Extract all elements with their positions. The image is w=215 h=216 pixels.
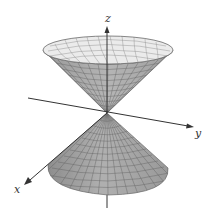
x-axis-label: x (14, 183, 21, 196)
z-axis-label: z (104, 12, 111, 25)
z-axis-arrow-icon (105, 26, 110, 33)
upper-nappe (43, 36, 173, 113)
lower-nappe (46, 113, 170, 196)
x-axis-arrow-icon (24, 177, 32, 185)
y-axis-label: y (194, 127, 202, 140)
y-axis-arrow-icon (186, 124, 194, 129)
double-cone-diagram: z y x (0, 0, 215, 216)
